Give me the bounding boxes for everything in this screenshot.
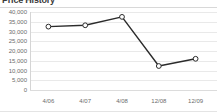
price-markers <box>46 14 198 68</box>
data-point-marker[interactable] <box>193 56 198 61</box>
plot-area: 05,00010,00015,00020,00025,00030,00035,0… <box>0 8 217 112</box>
data-point-marker[interactable] <box>83 23 88 28</box>
chart-title: Price History <box>2 0 55 5</box>
plot-bottom-divider <box>0 111 217 112</box>
data-point-marker[interactable] <box>120 14 125 19</box>
price-history-chart-widget: Price History 05,00010,00015,00020,00025… <box>0 0 217 112</box>
data-series-layer <box>0 8 217 112</box>
price-line <box>48 17 195 66</box>
data-point-marker[interactable] <box>46 24 51 29</box>
data-point-marker[interactable] <box>156 64 161 69</box>
